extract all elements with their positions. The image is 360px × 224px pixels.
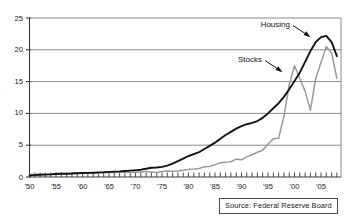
x-tick-label: '95	[263, 182, 273, 191]
annotation-label-stocks: Stocks	[238, 55, 262, 64]
x-tick-label: '80	[184, 182, 194, 191]
y-tick-label: 0	[19, 173, 23, 182]
chart-container: 25 20 15 10 5 0	[0, 0, 360, 224]
x-tick-label: '75	[157, 182, 167, 191]
y-tick-label: 15	[15, 77, 23, 86]
series-line-housing	[30, 36, 337, 176]
x-tick-label: '90	[237, 182, 247, 191]
line-chart-svg: 25 20 15 10 5 0	[0, 0, 360, 224]
series-line-stocks	[30, 47, 337, 175]
y-axis-ticks	[26, 18, 31, 177]
annotation-label-housing: Housing	[261, 20, 290, 29]
x-tick-label: '50	[25, 182, 35, 191]
x-tick-label: '60	[78, 182, 88, 191]
x-tick-label: '55	[51, 182, 61, 191]
x-tick-label: '00	[290, 182, 300, 191]
y-tick-label: 25	[15, 14, 23, 23]
x-tick-label: '70	[131, 182, 141, 191]
x-tick-label: '85	[210, 182, 220, 191]
x-tick-label: '65	[104, 182, 114, 191]
arrowhead-housing	[304, 31, 311, 37]
y-axis-labels: 25 20 15 10 5 0	[15, 14, 23, 182]
y-tick-label: 5	[19, 140, 23, 149]
source-note: Source: Federal Reserve Board	[219, 198, 338, 214]
y-tick-label: 10	[15, 108, 23, 117]
x-axis-labels: '50 '55 '60 '65 '70 '75 '80 '85 '90 '95 …	[25, 182, 326, 191]
arrowhead-stocks	[276, 66, 283, 72]
x-tick-label: '05	[316, 182, 326, 191]
annotation-stocks: Stocks	[238, 55, 283, 72]
annotation-housing: Housing	[261, 20, 311, 37]
y-tick-label: 20	[15, 45, 23, 54]
